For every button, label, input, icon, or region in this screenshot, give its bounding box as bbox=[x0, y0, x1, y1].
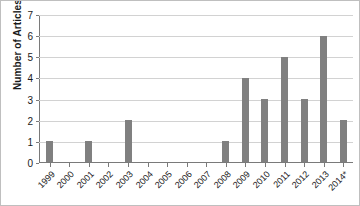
x-label-slot: 2009 bbox=[236, 167, 256, 206]
bar bbox=[261, 99, 268, 162]
x-label-slot: 2007 bbox=[197, 167, 217, 206]
y-tick-label: 6 bbox=[27, 31, 33, 42]
y-tick-mark bbox=[36, 142, 39, 143]
bar-slot bbox=[236, 15, 256, 162]
x-label-slot: 2014* bbox=[333, 167, 353, 206]
bar-slot bbox=[138, 15, 158, 162]
bar-slot bbox=[79, 15, 99, 162]
bar bbox=[125, 120, 132, 162]
y-tick-mark bbox=[36, 100, 39, 101]
bar-slot bbox=[60, 15, 80, 162]
y-tick-mark bbox=[36, 78, 39, 79]
x-label-slot: 2003 bbox=[118, 167, 138, 206]
bar bbox=[85, 141, 92, 162]
bar-slot bbox=[255, 15, 275, 162]
bar-slot bbox=[314, 15, 334, 162]
y-tick-label: 2 bbox=[27, 115, 33, 126]
y-tick-label: 3 bbox=[27, 94, 33, 105]
bar bbox=[301, 99, 308, 162]
bar-series bbox=[40, 15, 353, 162]
bar-slot bbox=[275, 15, 295, 162]
x-label-slot: 2011 bbox=[275, 167, 295, 206]
x-label-slot: 2000 bbox=[60, 167, 80, 206]
bar bbox=[46, 141, 53, 162]
x-label-slot: 2002 bbox=[99, 167, 119, 206]
y-tick-label: 0 bbox=[27, 158, 33, 169]
x-tick-label: 2011 bbox=[271, 169, 292, 190]
bar-slot bbox=[333, 15, 353, 162]
y-axis-title: Number of Articles bbox=[12, 0, 23, 105]
bar-slot bbox=[177, 15, 197, 162]
bar bbox=[281, 57, 288, 162]
x-tick-label: 1999 bbox=[36, 169, 57, 190]
bar bbox=[320, 36, 327, 162]
y-tick-mark bbox=[36, 57, 39, 58]
y-tick-label: 7 bbox=[27, 10, 33, 21]
x-label-slot: 2010 bbox=[255, 167, 275, 206]
bar bbox=[222, 141, 229, 162]
bar-slot bbox=[294, 15, 314, 162]
x-label-slot: 2012 bbox=[294, 167, 314, 206]
x-label-slot: 1999 bbox=[40, 167, 60, 206]
bar-slot bbox=[216, 15, 236, 162]
plot-area: 01234567 bbox=[39, 15, 353, 163]
y-tick-label: 1 bbox=[27, 136, 33, 147]
y-tick-label: 4 bbox=[27, 73, 33, 84]
bar-slot bbox=[118, 15, 138, 162]
bar bbox=[340, 120, 347, 162]
bar-slot bbox=[157, 15, 177, 162]
bar-chart-figure: Number of Articles 01234567 199920002001… bbox=[0, 0, 360, 206]
y-tick-mark bbox=[36, 15, 39, 16]
bar-slot bbox=[197, 15, 217, 162]
x-label-slot: 2005 bbox=[157, 167, 177, 206]
x-axis-labels: 1999200020012002200320042005200620072008… bbox=[40, 167, 353, 206]
x-label-slot: 2006 bbox=[177, 167, 197, 206]
bar bbox=[242, 78, 249, 162]
y-tick-mark bbox=[36, 163, 39, 164]
x-label-slot: 2004 bbox=[138, 167, 158, 206]
y-tick-mark bbox=[36, 36, 39, 37]
x-label-slot: 2008 bbox=[216, 167, 236, 206]
y-tick-mark bbox=[36, 121, 39, 122]
x-label-slot: 2001 bbox=[79, 167, 99, 206]
bar-slot bbox=[99, 15, 119, 162]
y-tick-label: 5 bbox=[27, 52, 33, 63]
bar-slot bbox=[40, 15, 60, 162]
